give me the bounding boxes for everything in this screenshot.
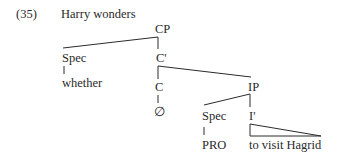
node-i-bar: I'	[249, 110, 255, 123]
example-number: (35)	[16, 8, 37, 21]
node-whether: whether	[62, 77, 102, 90]
node-ip: IP	[248, 81, 259, 94]
branch-cp-spec	[63, 37, 158, 48]
tree-branches	[0, 0, 342, 160]
node-c-bar: C'	[156, 52, 167, 65]
node-null: ∅	[154, 106, 165, 119]
example-sentence: Harry wonders	[61, 8, 136, 21]
triangle-ibar	[250, 124, 321, 136]
node-spec-cp: Spec	[62, 52, 86, 65]
node-i-bar-content: to visit Hagrid	[249, 139, 321, 152]
branch-ip-spec	[204, 94, 250, 105]
node-c: C	[155, 81, 163, 94]
node-spec-ip: Spec	[202, 110, 226, 123]
node-pro: PRO	[202, 139, 226, 152]
node-cp: CP	[155, 23, 170, 36]
branch-cbar-ip	[158, 66, 251, 77]
